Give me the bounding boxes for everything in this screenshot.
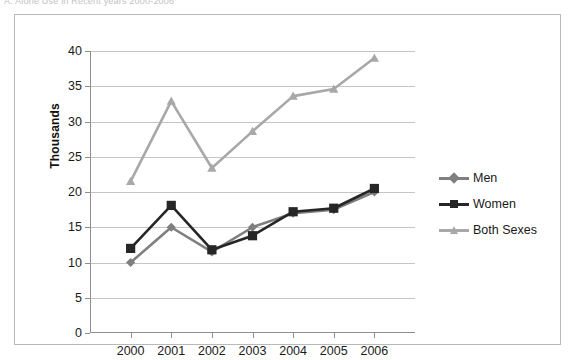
legend-label: Both Sexes: [473, 223, 537, 237]
legend-marker-icon: [439, 197, 469, 211]
x-axis-tick-label: 2006: [360, 344, 388, 358]
x-axis-tick-label: 2002: [198, 344, 226, 358]
series-line-both-sexes: [131, 58, 375, 181]
data-point-both-sexes: [167, 96, 176, 104]
figure-caption: A. Alone Use in Recent years 2000-2006: [4, 0, 304, 8]
series-line-women: [131, 188, 375, 249]
data-point-both-sexes: [370, 53, 379, 61]
data-point-both-sexes: [126, 177, 135, 185]
y-axis-tick-label: 30: [68, 115, 82, 129]
legend-item-men[interactable]: Men: [439, 165, 559, 191]
x-axis-tick: [293, 333, 294, 338]
y-axis-tick-label: 10: [68, 256, 82, 270]
x-axis-tick: [334, 333, 335, 338]
legend-item-both-sexes[interactable]: Both Sexes: [439, 217, 559, 243]
y-axis-tick-label: 15: [68, 220, 82, 234]
y-axis-tick-label: 40: [68, 44, 82, 58]
x-axis-tick-label: 2005: [320, 344, 348, 358]
legend-marker-icon: [439, 223, 469, 237]
legend-label: Men: [473, 171, 497, 185]
y-axis-tick-label: 25: [68, 150, 82, 164]
y-axis-tick-label: 20: [68, 185, 82, 199]
data-point-women: [329, 204, 338, 213]
data-point-women: [126, 244, 135, 253]
data-point-women: [370, 184, 379, 193]
x-axis-tick-label: 2001: [157, 344, 185, 358]
x-axis-tick: [212, 333, 213, 338]
plot-area: 0510152025303540 20002001200220032004200…: [90, 51, 415, 333]
x-axis-tick: [253, 333, 254, 338]
x-axis-tick: [374, 333, 375, 338]
y-axis-title: Thousands: [48, 103, 62, 169]
y-axis-tick-label: 5: [75, 291, 82, 305]
data-series-layer: [90, 51, 415, 333]
y-axis-tick-label: 0: [75, 326, 82, 340]
data-point-women: [207, 245, 216, 254]
chart-legend: MenWomenBoth Sexes: [439, 165, 559, 243]
data-point-women: [248, 231, 257, 240]
y-axis-tick: [85, 333, 90, 334]
chart-frame: Thousands 0510152025303540 2000200120022…: [14, 14, 561, 345]
x-axis-tick: [131, 333, 132, 338]
legend-item-women[interactable]: Women: [439, 191, 559, 217]
y-axis-tick-label: 35: [68, 79, 82, 93]
x-axis-tick: [171, 333, 172, 338]
x-axis-tick-label: 2003: [239, 344, 267, 358]
legend-label: Women: [473, 197, 516, 211]
data-point-women: [289, 207, 298, 216]
x-axis-tick-label: 2004: [279, 344, 307, 358]
legend-marker-icon: [439, 171, 469, 185]
x-axis-tick-label: 2000: [117, 344, 145, 358]
data-point-women: [167, 201, 176, 210]
